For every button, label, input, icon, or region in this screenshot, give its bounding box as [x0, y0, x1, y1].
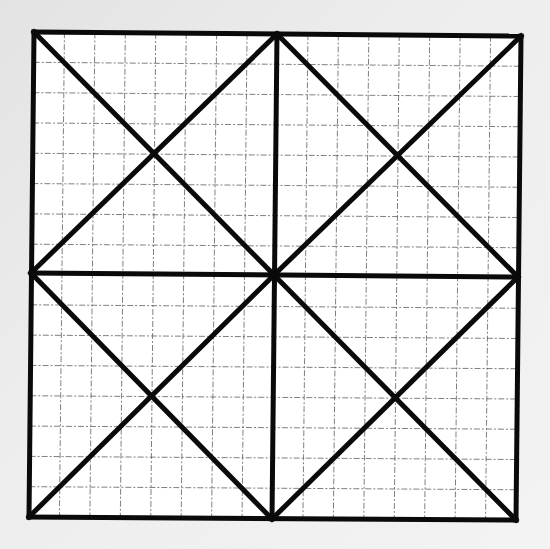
geometric-diagram	[0, 0, 550, 549]
figure-lines	[29, 32, 521, 520]
diagram-background	[0, 0, 550, 549]
